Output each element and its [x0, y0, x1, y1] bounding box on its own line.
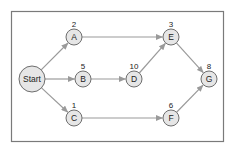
node-label: A — [71, 32, 77, 42]
node-label: F — [168, 113, 173, 123]
node-label: Start — [23, 74, 42, 84]
node-value: 3 — [169, 20, 174, 29]
node-value: 2 — [72, 20, 77, 29]
node-value: 1 — [72, 101, 77, 110]
node-label: D — [131, 74, 137, 84]
node-label: C — [71, 113, 77, 123]
node-value: 6 — [169, 101, 174, 110]
node-value: 8 — [207, 62, 212, 71]
node-label: G — [206, 74, 213, 84]
diagram-canvas: StartA2B5C1D10E3F6G8 — [0, 0, 233, 149]
node-value: 10 — [130, 62, 139, 71]
network-diagram: StartA2B5C1D10E3F6G8 — [0, 0, 233, 149]
node-label: E — [168, 32, 174, 42]
node-start: Start — [19, 66, 45, 92]
node-value: 5 — [81, 62, 86, 71]
node-label: B — [80, 74, 86, 84]
